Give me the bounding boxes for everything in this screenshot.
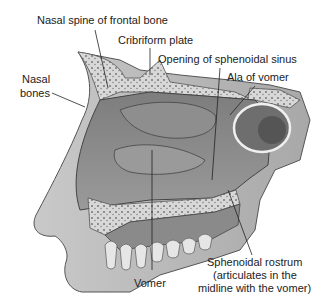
label-nasal-bones-2: bones [20,87,50,99]
label-nasal-spine: Nasal spine of frontal bone [37,14,168,26]
anatomy-figure: Nasal spine of frontal bone Cribriform p… [0,0,326,307]
label-cribriform: Cribriform plate [118,34,193,46]
label-sphenoidal-sinus: Opening of sphenoidal sinus [158,53,297,65]
label-rostrum-2: (articulates in the [213,269,297,281]
label-nasal-bones-1: Nasal [22,73,50,85]
label-ala-vomer: Ala of vomer [227,71,289,83]
label-rostrum-1: Sphenoidal rostrum [207,256,302,268]
label-vomer: Vomer [134,277,166,289]
nasal-cavity-illustration: Nasal spine of frontal bone Cribriform p… [0,0,326,307]
label-rostrum-3: midline with the vomer) [198,282,311,294]
